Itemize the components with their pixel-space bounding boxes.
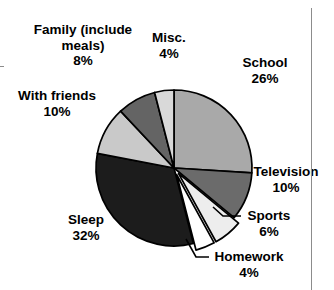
slice-label-family-pct: 8% bbox=[18, 53, 148, 69]
slice-label-sleep: Sleep 32% bbox=[55, 212, 117, 243]
slice-label-misc-name: Misc. bbox=[152, 30, 186, 45]
page-edge-rule-right bbox=[311, 8, 312, 290]
slice-label-school: School 26% bbox=[231, 55, 299, 86]
slice-label-sleep-pct: 32% bbox=[55, 228, 117, 244]
slice-label-television-name: Television bbox=[253, 164, 318, 179]
slice-label-family: Family (include meals) 8% bbox=[18, 22, 148, 69]
slice-label-sports: Sports 6% bbox=[240, 208, 298, 239]
slice-label-sports-pct: 6% bbox=[240, 224, 298, 240]
pie-chart: Family (include meals) 8% Misc. 4% Schoo… bbox=[0, 0, 334, 290]
slice-label-homework: Homework 4% bbox=[207, 249, 291, 280]
slice-label-television: Television 10% bbox=[246, 164, 326, 195]
slice-label-sports-name: Sports bbox=[248, 208, 291, 223]
slice-label-misc: Misc. 4% bbox=[141, 30, 197, 61]
pie-slice-school bbox=[174, 90, 252, 173]
slice-label-television-pct: 10% bbox=[246, 180, 326, 196]
slice-label-misc-pct: 4% bbox=[141, 46, 197, 62]
slice-label-with-friends: With friends 10% bbox=[9, 88, 105, 119]
slice-label-homework-name: Homework bbox=[214, 249, 283, 264]
slice-label-school-name: School bbox=[242, 55, 287, 70]
slice-label-school-pct: 26% bbox=[231, 71, 299, 87]
pie-slice-group bbox=[96, 90, 252, 250]
page-edge-mark-left bbox=[0, 66, 4, 67]
slice-label-homework-pct: 4% bbox=[207, 265, 291, 281]
slice-label-with-friends-name: With friends bbox=[18, 88, 96, 103]
slice-label-with-friends-pct: 10% bbox=[9, 104, 105, 120]
slice-label-sleep-name: Sleep bbox=[68, 212, 104, 227]
slice-label-family-name: Family (include meals) bbox=[34, 22, 132, 53]
